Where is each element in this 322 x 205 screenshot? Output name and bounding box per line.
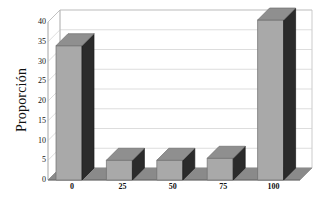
bar-front-75: [207, 158, 233, 180]
bar-front-100: [258, 20, 284, 180]
bar-side-0: [82, 34, 94, 180]
gridline-connector-35: [48, 30, 60, 42]
bar-side-100: [284, 8, 296, 180]
bar-front-0: [56, 46, 82, 180]
bar-chart: Proporción 0510152025303540 0255075100: [0, 0, 322, 205]
bar-front-25: [106, 160, 132, 180]
plot-area: [0, 0, 322, 205]
chart-canvas: [48, 8, 312, 180]
bar-front-50: [157, 160, 183, 180]
